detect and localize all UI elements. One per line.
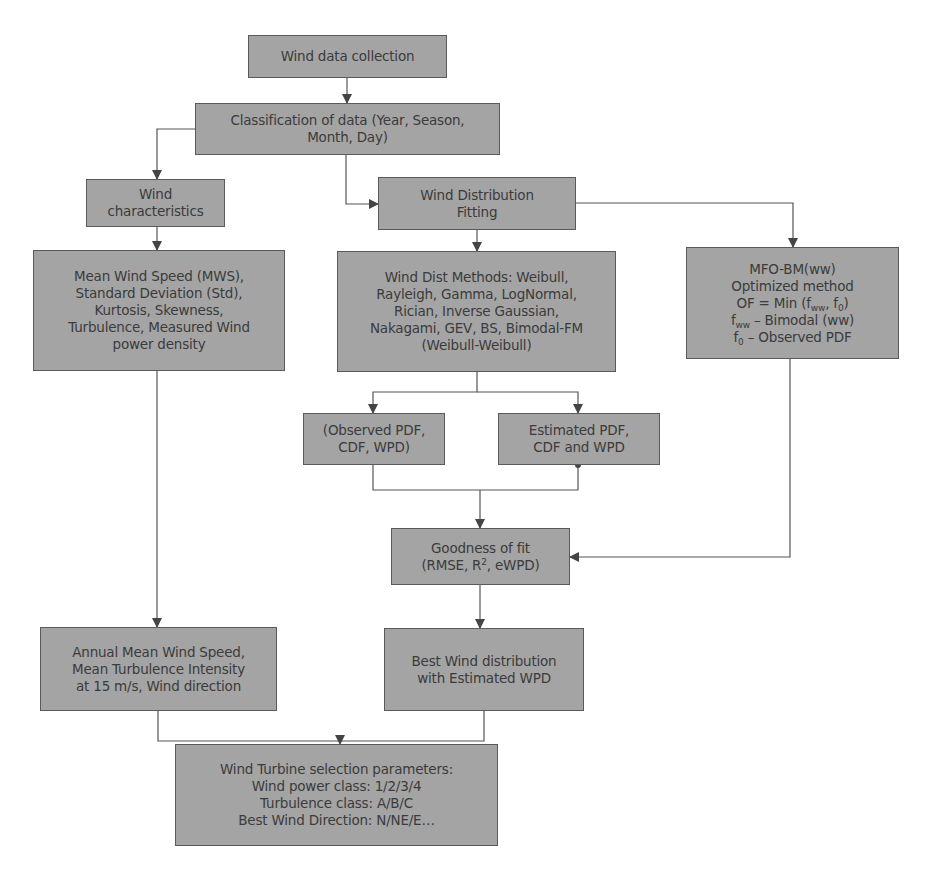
formula-text: , eWPD): [487, 557, 540, 573]
node-label: (Weibull-Weibull): [370, 337, 583, 354]
node-best-wind-distribution: Best Wind distribution with Estimated WP…: [384, 628, 584, 711]
node-label: Standard Deviation (Std),: [68, 285, 250, 302]
node-label-formula: f0 – Observed PDF: [731, 329, 854, 346]
node-label: Classification of data (Year, Season,: [231, 112, 465, 129]
node-wind-statistics: Mean Wind Speed (MWS), Standard Deviatio…: [33, 250, 285, 371]
formula-text: , f: [825, 295, 838, 311]
node-label: Wind Dist Methods: Weibull,: [370, 269, 583, 286]
node-label: Wind: [108, 186, 204, 203]
edge-methods-observed: [373, 372, 477, 413]
edge-annual-best-join: [158, 711, 484, 741]
node-label: Best Wind distribution: [412, 653, 557, 670]
node-wind-data-collection: Wind data collection: [248, 35, 447, 78]
node-observed-pdf: (Observed PDF, CDF, WPD): [303, 413, 445, 465]
node-label: Rayleigh, Gamma, LogNormal,: [370, 286, 583, 303]
node-label-formula: (RMSE, R2, eWPD): [422, 557, 540, 574]
node-estimated-pdf: Estimated PDF, CDF and WPD: [498, 413, 660, 465]
edge-observed-estimated-join: [373, 465, 578, 490]
node-wind-turbine-selection: Wind Turbine selection parameters: Wind …: [175, 744, 498, 846]
node-label: Optimized method: [731, 278, 854, 295]
edge-classification-characteristics: [157, 129, 195, 179]
node-label: Wind power class: 1/2/3/4: [220, 778, 453, 795]
node-label: CDF, WPD): [323, 439, 425, 456]
formula-text: ): [843, 295, 848, 311]
node-label: characteristics: [108, 203, 204, 220]
node-annual-mean-wind-speed: Annual Mean Wind Speed, Mean Turbulence …: [40, 627, 277, 711]
node-label: Wind Distribution: [420, 187, 534, 204]
node-classification-of-data: Classification of data (Year, Season, Mo…: [195, 103, 500, 155]
node-label: Fitting: [420, 204, 534, 221]
node-label: CDF and WPD: [529, 439, 629, 456]
node-label: Wind Turbine selection parameters:: [220, 761, 453, 778]
node-label: Best Wind Direction: N/NE/E…: [220, 812, 453, 829]
node-label: with Estimated WPD: [412, 670, 557, 687]
node-label-formula: OF = Min (fww, f0): [731, 295, 854, 312]
node-label: Month, Day): [231, 129, 465, 146]
node-label: power density: [68, 336, 250, 353]
node-wind-distribution-fitting: Wind Distribution Fitting: [378, 177, 576, 230]
formula-text: – Observed PDF: [744, 329, 852, 345]
node-label-formula: fww – Bimodal (ww): [731, 312, 854, 329]
node-wind-characteristics: Wind characteristics: [86, 179, 225, 227]
edge-fitting-mfo: [576, 203, 793, 247]
node-label: Goodness of fit: [422, 540, 540, 557]
node-label: Turbulence class: A/B/C: [220, 795, 453, 812]
node-mfo-bm-optimized: MFO-BM(ww) Optimized method OF = Min (fw…: [686, 247, 899, 359]
node-label: Estimated PDF,: [529, 422, 629, 439]
node-wind-dist-methods: Wind Dist Methods: Weibull, Rayleigh, Ga…: [337, 251, 616, 372]
node-label: Mean Turbulence Intensity: [72, 661, 245, 678]
flowchart-canvas: Wind data collection Classification of d…: [0, 0, 925, 875]
node-label: Turbulence, Measured Wind: [68, 319, 250, 336]
node-label: Wind data collection: [281, 48, 415, 65]
node-label: MFO-BM(ww): [731, 261, 854, 278]
node-label: (Observed PDF,: [323, 422, 425, 439]
node-goodness-of-fit: Goodness of fit (RMSE, R2, eWPD): [391, 528, 570, 585]
formula-text: (RMSE, R: [422, 557, 482, 573]
edge-methods-estimated: [477, 392, 578, 413]
node-label: Nakagami, GEV, BS, Bimodal-FM: [370, 320, 583, 337]
formula-text: – Bimodal (ww): [750, 312, 854, 328]
formula-text: OF = Min (f: [736, 295, 810, 311]
node-label: Annual Mean Wind Speed,: [72, 644, 245, 661]
edge-classification-fitting: [346, 155, 378, 204]
node-label: Rician, Inverse Gaussian,: [370, 303, 583, 320]
node-label: Kurtosis, Skewness,: [68, 302, 250, 319]
node-label: at 15 m/s, Wind direction: [72, 678, 245, 695]
node-label: Mean Wind Speed (MWS),: [68, 268, 250, 285]
